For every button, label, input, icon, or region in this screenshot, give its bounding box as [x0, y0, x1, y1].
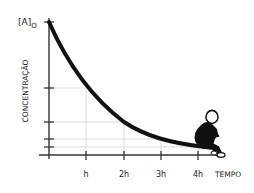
x-tick-label-4h: 4h	[193, 170, 203, 179]
y-top-label: [A]O	[18, 17, 37, 30]
sitting-figure-illustration	[195, 110, 225, 157]
x-tick-label-h: h	[83, 170, 88, 179]
x-axis-label: TEMPO	[214, 170, 241, 179]
x-tick-label-2h: 2h	[119, 170, 129, 179]
y-axis-label: CONCENTRAÇÃO	[21, 59, 30, 122]
x-tick-label-3h: 3h	[156, 170, 166, 179]
decay-chart: [A]O CONCENTRAÇÃO h 2h 3h 4h TEMPO	[0, 0, 254, 193]
axes	[39, 18, 222, 159]
decay-curve	[49, 22, 214, 148]
